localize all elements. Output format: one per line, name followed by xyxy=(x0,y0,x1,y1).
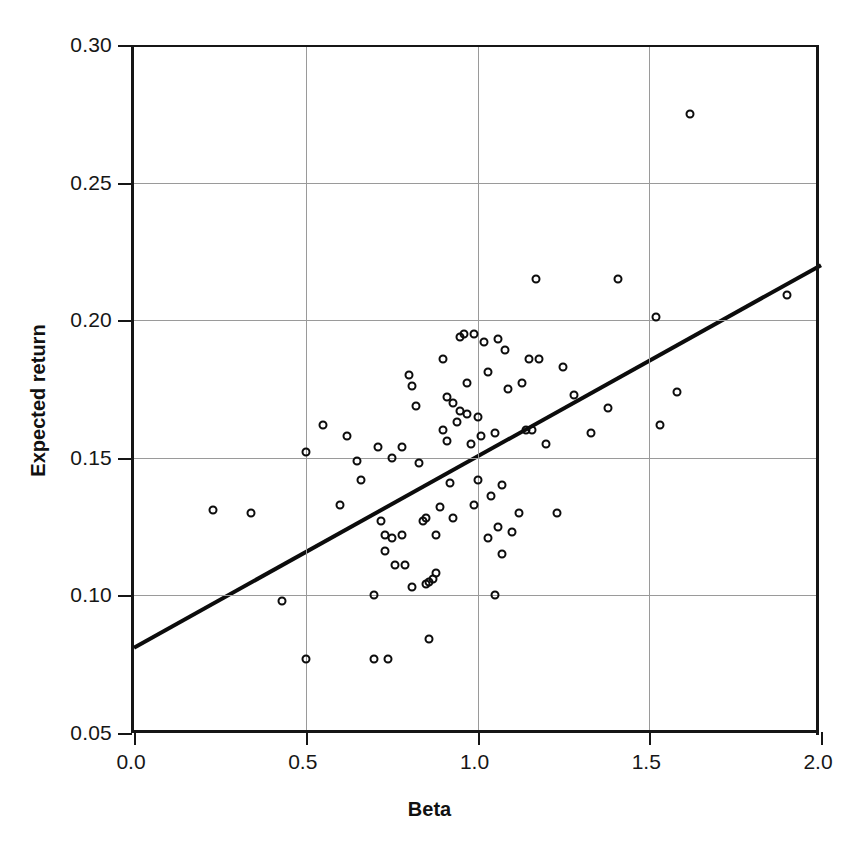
gridline-horizontal xyxy=(134,320,818,321)
scatter-point xyxy=(655,420,664,429)
y-axis-tick-label: 0.20 xyxy=(70,308,112,332)
x-axis-tick-label: 1.0 xyxy=(460,750,489,774)
x-axis-title: Beta xyxy=(0,798,859,821)
scatter-point xyxy=(528,426,537,435)
scatter-point xyxy=(370,591,379,600)
scatter-point xyxy=(569,390,578,399)
scatter-point xyxy=(535,354,544,363)
gridline-vertical xyxy=(306,45,307,730)
scatter-point xyxy=(397,442,406,451)
y-axis-tick-label: 0.25 xyxy=(70,171,112,195)
plot-area xyxy=(131,45,818,733)
scatter-point xyxy=(476,431,485,440)
scatter-plot-figure: 0.050.100.150.200.250.30 0.00.51.01.52.0… xyxy=(0,0,859,841)
scatter-point xyxy=(473,475,482,484)
x-axis-tick xyxy=(306,732,308,745)
x-axis-tick-label: 0.5 xyxy=(288,750,317,774)
scatter-point xyxy=(446,478,455,487)
scatter-point xyxy=(353,456,362,465)
scatter-point xyxy=(466,440,475,449)
y-axis-tick-label: 0.10 xyxy=(70,583,112,607)
y-axis-tick xyxy=(118,320,132,322)
x-axis-tick xyxy=(821,732,823,745)
scatter-point xyxy=(586,429,595,438)
scatter-point xyxy=(397,530,406,539)
scatter-point xyxy=(408,583,417,592)
scatter-point xyxy=(301,448,310,457)
y-axis-tick-label: 0.15 xyxy=(70,446,112,470)
scatter-point xyxy=(542,440,551,449)
gridline-vertical xyxy=(649,45,650,730)
scatter-point xyxy=(525,354,534,363)
scatter-point xyxy=(507,528,516,537)
scatter-point xyxy=(514,508,523,517)
gridline-horizontal xyxy=(134,458,818,459)
scatter-point xyxy=(470,500,479,509)
scatter-point xyxy=(277,596,286,605)
scatter-point xyxy=(408,382,417,391)
scatter-point xyxy=(494,522,503,531)
scatter-point xyxy=(391,561,400,570)
scatter-point xyxy=(384,654,393,663)
scatter-point xyxy=(463,409,472,418)
scatter-point xyxy=(301,654,310,663)
scatter-point xyxy=(449,398,458,407)
y-axis-tick xyxy=(118,458,132,460)
scatter-point xyxy=(614,274,623,283)
scatter-point xyxy=(452,418,461,427)
scatter-point xyxy=(483,368,492,377)
scatter-point xyxy=(672,387,681,396)
scatter-point xyxy=(463,379,472,388)
scatter-point xyxy=(490,429,499,438)
scatter-point xyxy=(494,335,503,344)
scatter-point xyxy=(782,291,791,300)
scatter-point xyxy=(401,561,410,570)
scatter-point xyxy=(387,453,396,462)
scatter-point xyxy=(604,404,613,413)
scatter-point xyxy=(439,426,448,435)
scatter-point xyxy=(686,109,695,118)
scatter-point xyxy=(449,514,458,523)
scatter-point xyxy=(318,420,327,429)
scatter-point xyxy=(387,533,396,542)
gridline-horizontal xyxy=(134,595,818,596)
scatter-point xyxy=(380,547,389,556)
scatter-point xyxy=(497,481,506,490)
scatter-point xyxy=(504,385,513,394)
scatter-point xyxy=(432,530,441,539)
scatter-point xyxy=(518,379,527,388)
scatter-point xyxy=(425,635,434,644)
scatter-point xyxy=(404,371,413,380)
scatter-point xyxy=(377,517,386,526)
scatter-point xyxy=(435,503,444,512)
scatter-point xyxy=(531,274,540,283)
x-axis-tick-label: 0.0 xyxy=(116,750,145,774)
scatter-point xyxy=(483,533,492,542)
scatter-point xyxy=(421,514,430,523)
y-axis-tick xyxy=(118,595,132,597)
scatter-point xyxy=(373,442,382,451)
scatter-point xyxy=(439,354,448,363)
scatter-point xyxy=(342,431,351,440)
x-axis-tick xyxy=(649,732,651,745)
x-axis-tick-label: 2.0 xyxy=(803,750,832,774)
scatter-point xyxy=(415,459,424,468)
scatter-point xyxy=(552,508,561,517)
x-axis-tick-label: 1.5 xyxy=(632,750,661,774)
scatter-point xyxy=(470,329,479,338)
y-axis-title: Expected return xyxy=(27,301,50,501)
x-axis-tick-labels: 0.00.51.01.52.0 xyxy=(0,750,859,780)
gridline-vertical xyxy=(478,45,479,730)
scatter-point xyxy=(459,329,468,338)
scatter-point xyxy=(336,500,345,509)
plot-border-top xyxy=(131,45,818,47)
y-axis-tick xyxy=(118,45,132,47)
y-axis-tick xyxy=(118,733,132,735)
x-axis-tick xyxy=(134,732,136,745)
scatter-point xyxy=(500,346,509,355)
scatter-point xyxy=(473,412,482,421)
gridline-horizontal xyxy=(134,183,818,184)
scatter-point xyxy=(356,475,365,484)
scatter-point xyxy=(432,569,441,578)
scatter-point xyxy=(490,591,499,600)
